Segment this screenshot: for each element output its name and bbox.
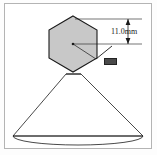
cone-base-ellipse-arc xyxy=(13,136,143,145)
cone-body xyxy=(13,74,143,136)
reference-label-box xyxy=(104,58,117,65)
dimension-arrow-up-icon xyxy=(126,19,131,25)
dimension-arrow-down-icon xyxy=(126,38,131,44)
technical-drawing-svg xyxy=(0,0,157,155)
dimension-label: 11.0mm xyxy=(111,27,137,36)
figure-container: 11.0mm xyxy=(0,0,157,155)
